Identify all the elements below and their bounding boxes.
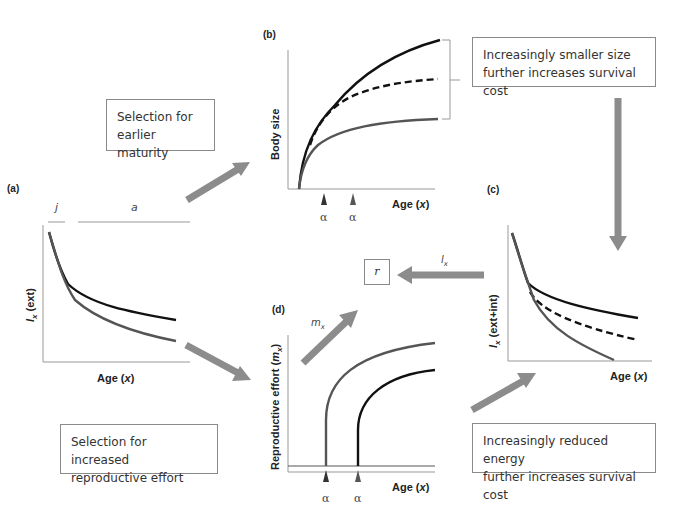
alpha-late-d: α xyxy=(354,492,361,505)
panel-a-chart xyxy=(43,222,190,362)
alpha-late-b: α xyxy=(349,211,356,224)
r-box: r xyxy=(364,259,390,285)
arrow-d-to-c xyxy=(472,380,525,410)
juvenile-stage-label: j xyxy=(55,201,58,214)
maturity-marker-late xyxy=(350,193,356,205)
lx-curve-reduced xyxy=(49,232,176,341)
body-size-curve-max xyxy=(299,40,440,189)
panel-d-label: (d) xyxy=(272,304,285,315)
lx-curve-reduced xyxy=(512,233,614,360)
panel-a-x-axis-label: Age (x) xyxy=(97,372,134,384)
panel-b-y-axis-label: Body size xyxy=(269,109,281,160)
body-size-curve-intermediate xyxy=(310,79,438,145)
lx-arrow-label: lx xyxy=(441,254,448,268)
arrow-a-to-d xyxy=(186,345,240,374)
alpha-early-b: α xyxy=(320,211,327,224)
box-reduced-energy-survival-cost: Increasingly reduced energy further incr… xyxy=(472,423,656,473)
body-size-curve-min xyxy=(299,119,438,189)
adult-stage-label: a xyxy=(131,201,138,214)
box-selection-earlier-maturity: Selection for earlier maturity xyxy=(106,99,215,151)
arrows xyxy=(186,98,627,410)
panel-b-label: (b) xyxy=(263,29,276,40)
panel-c-label: (c) xyxy=(487,184,499,195)
life-history-diagram: (a) (b) (c) (d) j a lx (ext) Age (x) Bod… xyxy=(0,0,675,518)
panel-b-x-axis-label: Age (x) xyxy=(392,198,429,210)
arrow-mx-to-r xyxy=(303,320,348,363)
alpha-early-d: α xyxy=(322,492,329,505)
maturity-marker-early xyxy=(321,193,327,205)
arrow-a-to-b xyxy=(187,168,240,200)
panel-b-chart xyxy=(288,40,460,205)
mx-arrow-label: mx xyxy=(311,317,325,331)
box-selection-reproductive-effort: Selection for increased reproductive eff… xyxy=(60,424,218,474)
box-smaller-size-survival-cost: Increasingly smaller size further increa… xyxy=(472,37,656,87)
panel-c-y-axis-label: lx (ext+int) xyxy=(487,294,502,348)
panel-d-y-axis-label: Reproductive effort (mx) xyxy=(269,344,284,470)
panel-a-label: (a) xyxy=(7,183,19,194)
size-range-bracket xyxy=(442,40,450,119)
panel-a-y-axis-label: lx (ext) xyxy=(24,288,39,322)
reproductive-effort-curve-early xyxy=(326,343,435,466)
reproductive-effort-curve-late xyxy=(358,370,435,466)
panel-c-chart xyxy=(508,225,652,361)
panel-c-x-axis-label: Age (x) xyxy=(610,370,647,382)
panel-d-x-axis-label: Age (x) xyxy=(392,481,429,493)
lx-curve-baseline xyxy=(49,232,176,320)
